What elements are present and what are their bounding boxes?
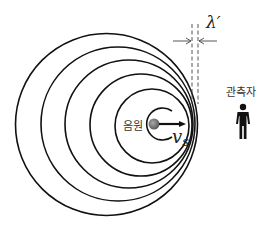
source-label: 음원 bbox=[123, 117, 143, 133]
velocity-symbol: v bbox=[172, 126, 182, 147]
observer-person-icon bbox=[236, 104, 250, 139]
wavelength-arrows bbox=[173, 38, 217, 44]
wavelength-label: λ′ bbox=[206, 12, 221, 32]
sound-source-dot bbox=[149, 119, 160, 130]
velocity-subscript: s bbox=[182, 134, 189, 149]
wavelength-guides bbox=[192, 24, 198, 104]
velocity-label: vs bbox=[172, 126, 189, 149]
observer-label: 관측자 bbox=[226, 83, 256, 99]
